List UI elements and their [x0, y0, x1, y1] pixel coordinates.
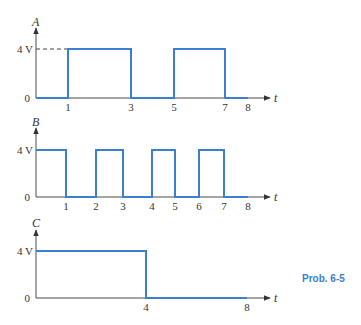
signal-trace — [36, 150, 248, 197]
x-tick-3: 3 — [128, 101, 134, 113]
x-tick-8: 8 — [245, 101, 251, 113]
x-tick-6: 6 — [196, 200, 202, 212]
time-axis-label: t — [274, 291, 278, 305]
y-tick-0: 0 — [25, 92, 31, 104]
signal-label: C — [32, 216, 41, 230]
figure-caption: Prob. 6-5 — [302, 273, 345, 284]
x-tick-7: 7 — [222, 101, 228, 113]
x-tick-4: 4 — [143, 301, 149, 313]
x-tick-2: 2 — [93, 200, 99, 212]
x-tick-3: 3 — [120, 200, 126, 212]
x-tick-5: 5 — [171, 101, 177, 113]
signal-label: B — [32, 115, 40, 129]
waveform-b: Bt04 V12345678 — [17, 115, 278, 212]
y-tick-0: 0 — [25, 191, 31, 203]
signal-trace — [36, 251, 247, 298]
waveform-c: Ct04 V48 — [17, 216, 278, 313]
x-tick-4: 4 — [149, 200, 155, 212]
x-tick-7: 7 — [221, 200, 227, 212]
time-axis-label: t — [274, 190, 278, 204]
signal-label: A — [31, 15, 40, 29]
x-tick-1: 1 — [63, 200, 69, 212]
time-axis-label: t — [274, 91, 278, 105]
y-tick-4v: 4 V — [17, 43, 33, 55]
x-tick-1: 1 — [65, 101, 71, 113]
y-tick-0: 0 — [25, 292, 31, 304]
x-tick-8: 8 — [245, 200, 251, 212]
x-tick-8: 8 — [244, 301, 250, 313]
waveform-a: At04 V13578 — [17, 15, 278, 113]
y-tick-4v: 4 V — [17, 245, 33, 257]
y-tick-4v: 4 V — [17, 144, 33, 156]
x-tick-5: 5 — [172, 200, 178, 212]
signal-trace — [36, 49, 248, 98]
